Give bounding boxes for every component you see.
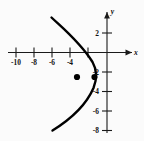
- y-axis-arrow-icon: [104, 12, 110, 19]
- y-axis-label: y: [110, 7, 115, 16]
- x-tick-label--8: -8: [31, 58, 37, 67]
- coordinate-plane-figure: -10 -8 -6 -4 2 -2 -4 -6 -8 x y: [0, 0, 144, 141]
- parabola-curve: [52, 18, 96, 131]
- focus-point: [74, 74, 80, 80]
- graph-screenshot: -10 -8 -6 -4 2 -2 -4 -6 -8 x y: [0, 0, 144, 141]
- x-tick-label--10: -10: [11, 58, 21, 67]
- x-tick-label--4: -4: [67, 58, 73, 67]
- y-axis-group: [102, 12, 112, 133]
- x-tick-label--6: -6: [49, 58, 55, 67]
- y-tick-label--2: -2: [93, 68, 99, 77]
- x-axis-group: [8, 48, 132, 58]
- y-tick-label-2: 2: [95, 29, 99, 38]
- y-tick-label--6: -6: [93, 107, 99, 116]
- y-tick-label--8: -8: [93, 126, 99, 135]
- x-axis-arrow-icon: [126, 50, 133, 56]
- x-axis-label: x: [133, 48, 138, 57]
- y-tick-label--4: -4: [93, 87, 99, 96]
